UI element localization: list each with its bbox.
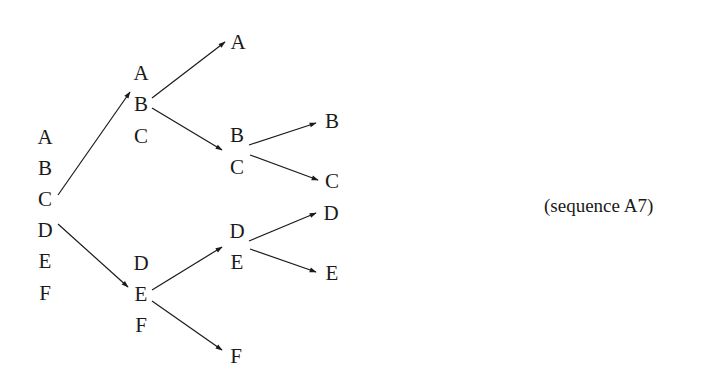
- letter-f: F: [230, 344, 242, 368]
- arrow-bc-to-leafB: [249, 123, 316, 145]
- arrow-root-to-abc: [58, 92, 130, 195]
- node-leafB: B: [325, 109, 339, 133]
- node-leafC: C: [325, 169, 339, 193]
- arrow-def-to-de: [152, 247, 222, 290]
- sequence-caption: (sequence A7): [544, 195, 653, 217]
- arrow-de-to-leafE: [250, 249, 316, 272]
- letter-b: B: [38, 156, 52, 180]
- letter-b: B: [325, 109, 339, 133]
- letter-a: A: [230, 30, 246, 54]
- arrow-abc-to-leafA: [152, 42, 225, 98]
- letter-d: D: [229, 219, 244, 243]
- letter-f: F: [135, 313, 147, 337]
- letter-b: B: [230, 123, 244, 147]
- node-de: DE: [229, 219, 244, 274]
- node-root: ABCDEF: [37, 125, 53, 305]
- letter-e: E: [39, 249, 52, 273]
- letter-a: A: [133, 61, 149, 85]
- node-bc: BC: [230, 123, 244, 179]
- letter-c: C: [325, 169, 339, 193]
- arrow-abc-to-bc: [152, 108, 222, 150]
- letter-e: E: [326, 261, 339, 285]
- node-def: DEF: [133, 251, 148, 337]
- arrow-de-to-leafD: [249, 213, 316, 241]
- letter-d: D: [37, 218, 52, 242]
- tree-edges: [58, 42, 318, 350]
- node-leafE: E: [326, 261, 339, 285]
- letter-d: D: [323, 201, 338, 225]
- letter-b: B: [134, 92, 148, 116]
- arrow-bc-to-leafC: [250, 155, 318, 180]
- node-leafD: D: [323, 201, 338, 225]
- tree-nodes: ABCDEFABCDEFBCDEAFBCDE: [37, 30, 339, 368]
- letter-c: C: [134, 124, 148, 148]
- letter-e: E: [135, 282, 148, 306]
- letter-c: C: [38, 187, 52, 211]
- letter-d: D: [133, 251, 148, 275]
- letter-c: C: [230, 155, 244, 179]
- sequence-tree-diagram: ABCDEFABCDEFBCDEAFBCDE (sequence A7): [0, 0, 725, 386]
- node-leafA: A: [230, 30, 246, 54]
- node-leafF: F: [230, 344, 242, 368]
- letter-f: F: [39, 281, 51, 305]
- node-abc: ABC: [133, 61, 149, 148]
- arrow-def-to-leafF: [152, 301, 222, 350]
- arrow-root-to-def: [58, 224, 128, 287]
- letter-e: E: [231, 250, 244, 274]
- letter-a: A: [37, 125, 53, 149]
